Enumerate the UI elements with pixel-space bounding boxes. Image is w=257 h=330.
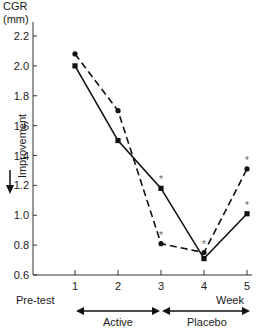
significance-marker: * (245, 155, 249, 166)
x-tick-label: 2 (115, 280, 121, 292)
phase-placebo-label: Placebo (187, 316, 227, 328)
data-point (244, 166, 249, 171)
significance-marker: * (245, 200, 249, 211)
arrow-left-icon (162, 307, 170, 315)
data-point (72, 51, 77, 56)
y-tick-label: 1.4 (14, 150, 29, 162)
pretest-label: Pre-test (16, 294, 55, 306)
x-tick-label: 4 (201, 280, 207, 292)
data-point (201, 250, 206, 255)
arrow-right-icon (242, 307, 250, 315)
phase-active-label: Active (103, 316, 133, 328)
x-tick-label: 5 (244, 280, 250, 292)
y-tick-label: 1.0 (14, 209, 29, 221)
data-point (158, 186, 163, 191)
chart-canvas: 2.22.01.81.61.41.21.00.80.612345***** (0, 0, 257, 330)
y-tick-label: 2.0 (14, 60, 29, 72)
arrow-left-icon (76, 307, 84, 315)
y-tick-label: 0.6 (14, 269, 29, 281)
data-point (158, 241, 163, 246)
y-tick-label: 1.6 (14, 120, 29, 132)
significance-marker: * (159, 230, 163, 241)
arrow-right-icon (152, 307, 160, 315)
data-point (201, 256, 206, 261)
data-point (115, 138, 120, 143)
x-axis-label: Week (216, 294, 244, 306)
y-tick-label: 1.2 (14, 179, 29, 191)
data-point (115, 108, 120, 113)
data-point (72, 63, 77, 68)
significance-marker: * (202, 239, 206, 250)
x-tick-label: 1 (72, 280, 78, 292)
significance-marker: * (159, 174, 163, 185)
y-tick-label: 2.2 (14, 30, 29, 42)
y-tick-label: 1.8 (14, 90, 29, 102)
x-tick-label: 3 (158, 280, 164, 292)
y-tick-label: 0.8 (14, 239, 29, 251)
series-line-dashed (75, 54, 247, 253)
data-point (244, 211, 249, 216)
